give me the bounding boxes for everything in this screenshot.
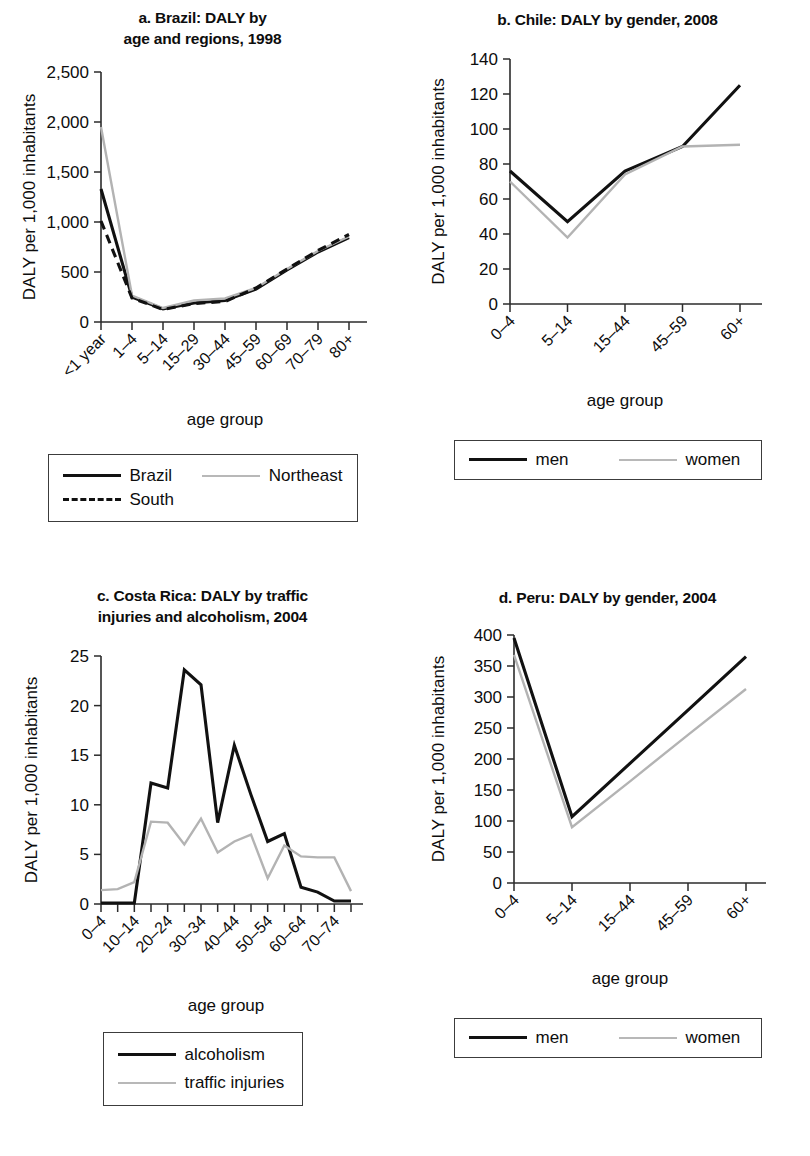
line-swatch-gray-icon <box>619 459 677 461</box>
legend-row: traffic injuries <box>118 1073 288 1093</box>
legend-row: South <box>63 490 343 510</box>
y-tick-label: 1,500 <box>46 163 89 182</box>
panel-a-title-line2: age and regions, 1998 <box>124 30 282 47</box>
series-line-men <box>510 85 740 222</box>
y-tick-label: 150 <box>473 781 501 800</box>
line-swatch-gray-icon <box>202 475 260 477</box>
panel-d-svg: 0501001502002503003504000–45–1415–4445–5… <box>418 609 798 999</box>
y-tick-label: 80 <box>479 155 498 174</box>
y-tick-label: 300 <box>473 688 501 707</box>
panel-c-title-line1: c. Costa Rica: DALY by traffic <box>97 587 308 604</box>
x-axis-title: age group <box>591 969 668 988</box>
x-tick-label: <1 year <box>59 329 110 380</box>
y-axis-title: DALY per 1,000 inhabitants <box>429 78 448 284</box>
y-tick-label: 350 <box>473 657 501 676</box>
y-tick-label: 10 <box>70 796 89 815</box>
panel-b-title-line1: b. Chile: DALY by gender, 2008 <box>497 11 718 28</box>
legend-item-men: men <box>469 1028 619 1048</box>
y-tick-label: 40 <box>479 225 498 244</box>
legend-item-northeast: Northeast <box>202 466 343 486</box>
series-line-south <box>101 221 349 310</box>
daly-figure-grid: a. Brazil: DALY by age and regions, 1998… <box>0 0 810 1156</box>
panel-c-costa-rica: c. Costa Rica: DALY by traffic injuries … <box>0 578 405 1156</box>
y-tick-label: 15 <box>70 746 89 765</box>
panel-a-brazil: a. Brazil: DALY by age and regions, 1998… <box>0 0 405 578</box>
y-tick-label: 500 <box>60 263 88 282</box>
line-swatch-solid-icon <box>469 458 527 461</box>
y-tick-label: 60 <box>479 190 498 209</box>
line-swatch-dashed-icon <box>63 498 121 501</box>
x-axis-title: age group <box>186 410 263 429</box>
legend-row: men women <box>469 450 747 470</box>
line-swatch-solid-icon <box>469 1036 527 1039</box>
y-axis-title: DALY per 1,000 inhabitants <box>20 94 39 300</box>
x-tick-label: 60–64 <box>265 912 309 956</box>
panel-c-legend: alcoholism traffic injuries <box>103 1032 303 1106</box>
panel-d-peru: d. Peru: DALY by gender, 2004 0501001502… <box>405 578 810 1156</box>
y-tick-label: 20 <box>70 696 89 715</box>
y-tick-label: 200 <box>473 750 501 769</box>
x-tick-label: 60+ <box>716 312 747 343</box>
panel-b-plot: 0204060801001201400–45–1415–4445–5960+DA… <box>418 31 798 421</box>
legend-item-brazil: Brazil <box>63 466 202 486</box>
panel-d-plot: 0501001502002503003504000–45–1415–4445–5… <box>418 609 798 999</box>
panel-c-svg: 05101520250–410–1420–2430–3440–4450–5460… <box>13 628 393 1018</box>
panel-d-title-line1: d. Peru: DALY by gender, 2004 <box>499 589 716 606</box>
y-axis-title: DALY per 1,000 inhabitants <box>22 677 41 883</box>
legend-row: men women <box>469 1028 747 1048</box>
legend-label: alcoholism <box>185 1045 265 1065</box>
y-tick-label: 2,500 <box>46 63 89 82</box>
legend-label: Brazil <box>130 466 173 486</box>
legend-label: Northeast <box>269 466 343 486</box>
panel-b-title: b. Chile: DALY by gender, 2008 <box>418 0 798 31</box>
y-axis-title: DALY per 1,000 inhabitants <box>429 656 448 862</box>
panel-d-legend: men women <box>454 1018 762 1058</box>
y-tick-label: 250 <box>473 719 501 738</box>
y-tick-label: 1,000 <box>46 213 89 232</box>
legend-row: alcoholism <box>118 1045 288 1065</box>
legend-label: men <box>536 1028 569 1048</box>
line-swatch-solid-icon <box>118 1053 176 1056</box>
x-tick-label: 70–74 <box>298 912 342 956</box>
y-tick-label: 140 <box>469 50 497 69</box>
y-tick-label: 100 <box>469 120 497 139</box>
x-tick-label: 50–54 <box>232 912 276 956</box>
series-line-women <box>510 145 740 238</box>
panel-c-title: c. Costa Rica: DALY by traffic injuries … <box>43 578 363 628</box>
x-tick-label: 10–14 <box>98 912 142 956</box>
line-swatch-gray-icon <box>619 1037 677 1039</box>
legend-label: men <box>536 450 569 470</box>
y-tick-label: 400 <box>473 626 501 645</box>
series-line-brazil <box>101 189 349 309</box>
x-axis-title: age group <box>586 391 663 410</box>
legend-label: South <box>130 490 174 510</box>
y-tick-label: 120 <box>469 85 497 104</box>
x-tick-label: 5–14 <box>538 312 575 349</box>
x-tick-label: 45–59 <box>647 312 691 356</box>
legend-item-traffic-injuries: traffic injuries <box>118 1073 285 1093</box>
y-tick-label: 2,000 <box>46 113 89 132</box>
y-tick-label: 5 <box>79 845 88 864</box>
legend-label: women <box>686 450 741 470</box>
line-swatch-gray-icon <box>118 1082 176 1084</box>
legend-label: traffic injuries <box>185 1073 285 1093</box>
x-tick-label: 60+ <box>722 891 753 922</box>
x-tick-label: 20–24 <box>132 912 176 956</box>
panel-a-plot: 05001,0001,5002,0002,500<1 year1–45–1415… <box>13 50 393 440</box>
series-line-northeast <box>101 127 349 308</box>
panel-c-title-line2: injuries and alcoholism, 2004 <box>98 608 308 625</box>
y-tick-label: 0 <box>79 895 88 914</box>
x-tick-label: 30–34 <box>165 912 209 956</box>
legend-item-women: women <box>619 450 741 470</box>
legend-row: Brazil Northeast <box>63 466 343 486</box>
panel-a-title-line1: a. Brazil: DALY by <box>138 9 266 26</box>
y-tick-label: 0 <box>492 874 501 893</box>
panel-b-svg: 0204060801001201400–45–1415–4445–5960+DA… <box>418 31 798 421</box>
panel-d-title: d. Peru: DALY by gender, 2004 <box>418 578 798 609</box>
x-tick-label: 5–14 <box>542 891 579 928</box>
y-tick-label: 50 <box>483 843 502 862</box>
panel-a-svg: 05001,0001,5002,0002,500<1 year1–45–1415… <box>13 50 393 440</box>
series-line-men <box>514 638 746 817</box>
x-tick-label: 0–4 <box>487 312 518 343</box>
legend-item-women: women <box>619 1028 741 1048</box>
